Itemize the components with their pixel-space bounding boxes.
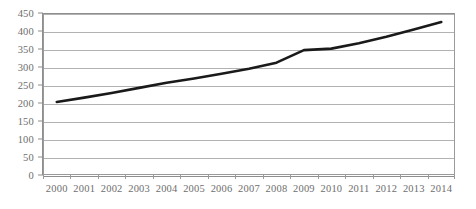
x-tick-mark-2001 [70, 175, 71, 179]
x-tick-mark-2010 [318, 175, 319, 179]
x-tick-mark-end [454, 175, 455, 179]
series-layer [43, 13, 455, 175]
x-tick-label-2013: 2013 [403, 183, 425, 194]
y-tick-label-150: 150 [18, 116, 34, 127]
x-tick-label-2005: 2005 [183, 183, 205, 194]
y-tick-label-0: 0 [29, 170, 34, 181]
x-tick-mark-2013 [400, 175, 401, 179]
x-tick-label-2006: 2006 [211, 183, 233, 194]
series-line-series-1 [57, 22, 442, 102]
x-tick-label-2004: 2004 [156, 183, 178, 194]
line-chart: 050100150200250300350400450 200020012002… [0, 0, 476, 209]
y-axis: 050100150200250300350400450 [0, 13, 43, 175]
x-tick-mark-2002 [98, 175, 99, 179]
x-tick-mark-2004 [153, 175, 154, 179]
x-tick-mark-2009 [290, 175, 291, 179]
x-tick-label-2000: 2000 [46, 183, 68, 194]
x-tick-mark-2000 [43, 175, 44, 179]
x-tick-mark-2014 [428, 175, 429, 179]
y-tick-label-100: 100 [18, 134, 34, 145]
x-tick-label-2014: 2014 [430, 183, 452, 194]
x-tick-mark-2005 [180, 175, 181, 179]
x-tick-mark-2008 [263, 175, 264, 179]
x-axis: 2000200120022003200420052006200720082009… [43, 175, 455, 209]
x-tick-label-2003: 2003 [128, 183, 150, 194]
y-tick-label-350: 350 [18, 44, 34, 55]
x-tick-mark-2011 [345, 175, 346, 179]
x-tick-label-2012: 2012 [375, 183, 397, 194]
x-tick-label-2009: 2009 [293, 183, 315, 194]
y-tick-label-50: 50 [23, 152, 34, 163]
x-tick-label-2010: 2010 [320, 183, 342, 194]
x-tick-mark-2007 [235, 175, 236, 179]
x-tick-mark-2012 [373, 175, 374, 179]
x-tick-mark-2006 [208, 175, 209, 179]
y-tick-label-250: 250 [18, 80, 34, 91]
x-tick-label-2008: 2008 [266, 183, 288, 194]
y-tick-label-450: 450 [18, 8, 34, 19]
y-tick-label-200: 200 [18, 98, 34, 109]
x-tick-mark-2003 [125, 175, 126, 179]
x-tick-label-2011: 2011 [348, 183, 369, 194]
x-tick-label-2007: 2007 [238, 183, 260, 194]
x-tick-label-2002: 2002 [101, 183, 123, 194]
x-tick-label-2001: 2001 [73, 183, 95, 194]
y-tick-label-300: 300 [18, 62, 34, 73]
y-tick-label-400: 400 [18, 26, 34, 37]
